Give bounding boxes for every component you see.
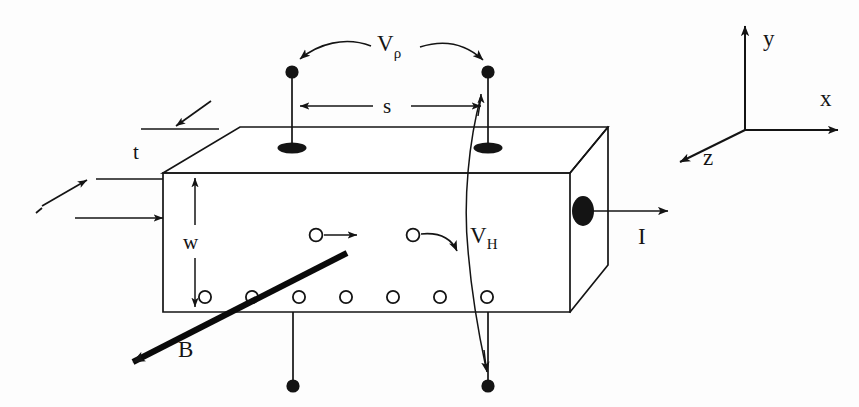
electron-circle xyxy=(340,291,352,303)
electron-circle xyxy=(481,291,493,303)
current-label: I xyxy=(638,224,646,249)
top-terminal-left xyxy=(285,65,298,78)
y-axis-label: y xyxy=(763,26,775,51)
bfield-label: B xyxy=(178,337,193,362)
hall-effect-svg: Vρ s VH t w xyxy=(0,0,859,407)
thickness-label: t xyxy=(133,140,139,164)
electron-circle xyxy=(293,291,305,303)
electron-circle xyxy=(199,291,211,303)
z-axis-label: z xyxy=(703,145,713,170)
carrier-circle-drift xyxy=(310,229,323,242)
carrier-circle-deflected xyxy=(407,229,420,242)
sample-bar xyxy=(163,127,608,312)
top-terminal-right xyxy=(481,65,494,78)
bottom-terminal-left xyxy=(286,379,299,392)
width-label: w xyxy=(183,230,199,254)
bottom-terminal-right xyxy=(481,379,494,392)
front-face-fill xyxy=(163,173,570,312)
spacing-label: s xyxy=(383,94,391,118)
hall-effect-diagram: Vρ s VH t w xyxy=(0,0,859,407)
electron-circle xyxy=(387,291,399,303)
x-axis-label: x xyxy=(820,86,832,111)
electron-circle xyxy=(434,291,446,303)
